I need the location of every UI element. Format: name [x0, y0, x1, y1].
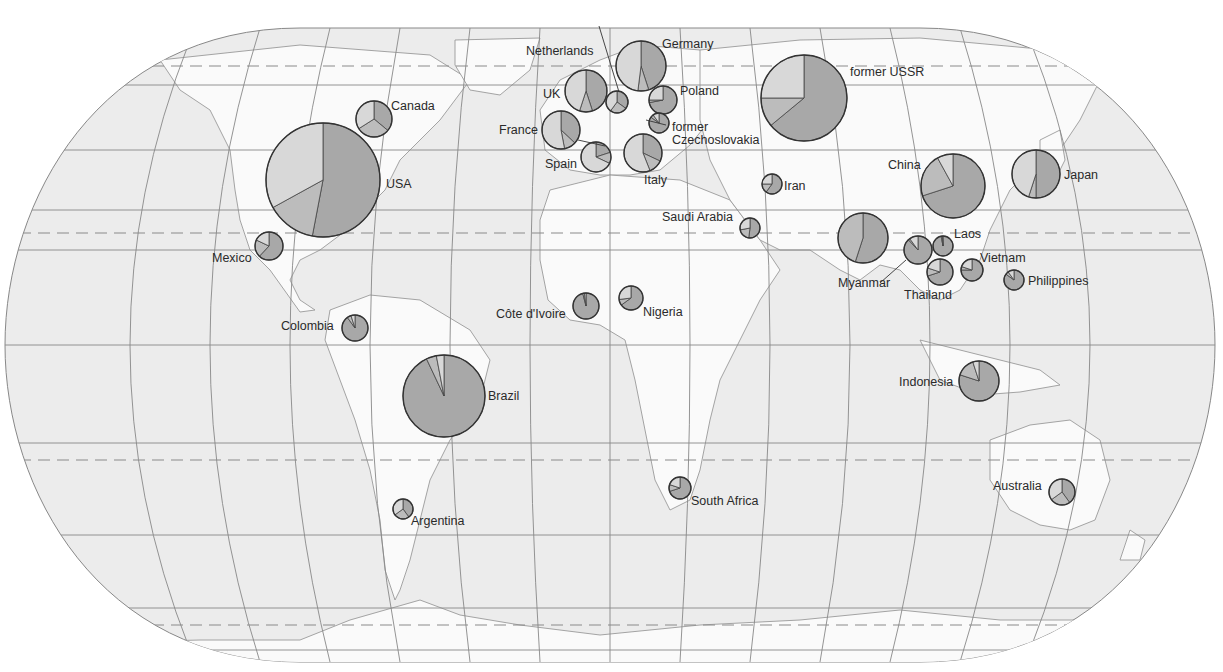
pie-china [921, 154, 985, 218]
label-brazil: Brazil [488, 389, 519, 403]
label-germany: Germany [662, 37, 714, 51]
label-poland: Poland [680, 84, 719, 98]
label-nigeria: Nigeria [643, 305, 683, 319]
pie-colombia [342, 315, 368, 341]
label-vietnam: Vietnam [980, 251, 1026, 265]
pie-australia [1049, 479, 1075, 505]
label-czech-line2: Czechoslovakia [672, 133, 760, 147]
pie-germany [616, 41, 666, 91]
label-japan: Japan [1064, 168, 1098, 182]
pie-brazil [403, 355, 485, 437]
label-cote-divoire: Côte d'Ivoire [496, 307, 566, 321]
label-philippines: Philippines [1028, 274, 1088, 288]
pie-usa [266, 123, 380, 237]
label-usa: USA [386, 177, 412, 191]
label-thailand: Thailand [904, 288, 952, 302]
label-spain: Spain [545, 157, 577, 171]
pie-mexico [255, 232, 283, 260]
label-south-africa: South Africa [691, 494, 758, 508]
label-canada: Canada [391, 99, 435, 113]
pie-philippines [1004, 270, 1024, 290]
pie-iran [762, 174, 782, 194]
label-saudi-arabia: Saudi Arabia [662, 210, 733, 224]
label-colombia: Colombia [281, 319, 334, 333]
label-czech-line1: former [672, 120, 708, 134]
pie-thailand-south [927, 259, 953, 285]
label-italy: Italy [644, 173, 668, 187]
pie-netherlands [606, 91, 628, 113]
pie-former-ussr [761, 55, 847, 141]
world-map: USA Canada Mexico Colombia Brazil Argent… [0, 0, 1223, 672]
label-france: France [499, 123, 538, 137]
pie-laos [933, 236, 953, 256]
pie-thailand [904, 236, 932, 264]
pie-france [542, 111, 580, 149]
label-myanmar: Myanmar [838, 276, 890, 290]
pie-south-africa [669, 477, 691, 499]
pie-canada [356, 101, 392, 137]
label-netherlands: Netherlands [526, 44, 593, 58]
label-indonesia: Indonesia [899, 375, 953, 389]
pie-uk [565, 70, 607, 112]
label-laos: Laos [954, 227, 981, 241]
label-argentina: Argentina [411, 514, 465, 528]
pie-italy [624, 134, 662, 172]
label-china: China [888, 158, 921, 172]
pie-spain [581, 142, 611, 172]
pie-argentina [393, 499, 413, 519]
pie-c-te-d-ivoire [573, 293, 599, 319]
label-ussr: former USSR [850, 65, 924, 79]
pie-poland [649, 86, 677, 114]
pie-myanmar [838, 213, 888, 263]
label-uk: UK [543, 87, 561, 101]
label-mexico: Mexico [212, 251, 252, 265]
pie-saudi-arabia [740, 218, 760, 238]
label-iran: Iran [784, 179, 806, 193]
pie-indonesia [959, 361, 999, 401]
label-australia: Australia [993, 479, 1042, 493]
pie-japan [1012, 150, 1060, 198]
pie-nigeria [619, 286, 643, 310]
